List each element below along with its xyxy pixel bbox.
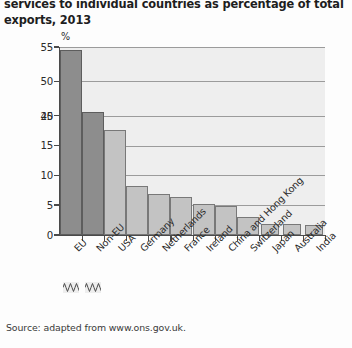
y-tick-10: [54, 175, 59, 176]
y-axis-line: [59, 47, 60, 236]
y-tick-5: [54, 204, 59, 205]
bar-eu: [60, 50, 82, 235]
y-tick-50: [54, 81, 59, 82]
y-tick-label-0: 0: [7, 230, 53, 241]
chart-title: services to individual countries as perc…: [4, 0, 348, 28]
bar-germany: [126, 186, 148, 236]
y-tick-label-15: 15: [7, 140, 53, 151]
chart-page: services to individual countries as perc…: [0, 0, 352, 348]
bar-usa: [104, 130, 126, 235]
y-tick-15: [54, 145, 59, 146]
y-tick-label-50: 50: [7, 76, 53, 87]
x-label-eu: EU: [72, 237, 89, 254]
bar-non-eu: [82, 112, 104, 235]
source-note: Source: adapted from www.ons.gov.uk.: [6, 322, 186, 333]
y-tick-label-10: 10: [7, 170, 53, 181]
y-tick-55: [54, 46, 59, 47]
y-tick-20: [54, 115, 59, 116]
y-tick-0: [54, 234, 59, 235]
chart-figure: % 55504520151050 EUNon-EUUSAGermanyNethe…: [0, 30, 352, 310]
chart-title-line-2: exports, 2013: [4, 13, 348, 29]
y-tick-label-20: 20: [7, 110, 53, 121]
y-tick-label-55: 55: [7, 42, 53, 53]
gridline-55: [60, 47, 325, 48]
y-tick-label-5: 5: [7, 200, 53, 211]
gridline-50: [60, 81, 325, 82]
y-axis-unit-label: %: [61, 31, 70, 42]
chart-title-line-1: services to individual countries as perc…: [4, 0, 348, 13]
